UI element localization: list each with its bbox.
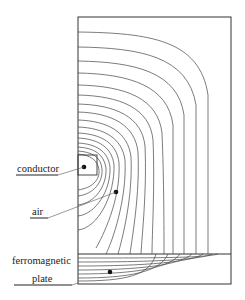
plate-field-lines <box>78 254 218 281</box>
plate-label-line1: ferromagnetic <box>12 255 71 266</box>
plate-label-line2: plate <box>32 273 53 284</box>
air-label: air <box>32 206 44 217</box>
field-diagram: conductor air ferromagnetic plate <box>0 0 245 300</box>
label-underlines <box>14 175 72 285</box>
plate-point <box>108 270 113 275</box>
leader-lines <box>48 167 116 285</box>
conductor-region <box>78 155 97 175</box>
air-field-lines <box>78 32 208 254</box>
conductor-label: conductor <box>17 163 59 174</box>
